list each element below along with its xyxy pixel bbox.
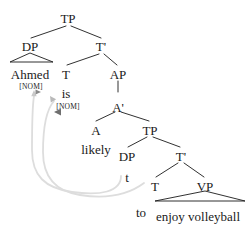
branch-abar-tp2 <box>121 112 149 121</box>
branch-tp2-tbar2 <box>153 137 180 147</box>
syntax-tree-figure: TP DP T' Ahmed [NOM] T is [NOM] AP A' A … <box>0 0 249 234</box>
branch-tbar2-t2 <box>156 163 178 177</box>
branch-tbar2-vp <box>184 163 204 177</box>
tree-lines-svg <box>0 0 249 234</box>
terminal-enjoy-volleyball: enjoy volleyball <box>156 210 240 223</box>
terminal-is: is <box>62 87 71 100</box>
node-a-head: A <box>91 124 100 137</box>
terminal-trace: t <box>125 171 129 184</box>
branch-tp1-tbar1 <box>71 26 101 38</box>
branch-tbar1-t1 <box>67 54 99 65</box>
node-dp-embedded: DP <box>119 150 136 163</box>
terminal-likely: likely <box>81 143 111 156</box>
node-dp-subject: DP <box>22 40 39 53</box>
branch-tbar1-ap <box>104 54 117 65</box>
feature-is-nom: [NOM] <box>56 103 80 111</box>
node-tbar-matrix: T' <box>96 40 106 53</box>
terminal-to: to <box>136 206 146 219</box>
node-ap: AP <box>110 68 127 81</box>
node-t-matrix: T <box>62 68 70 81</box>
triangle-dp-ahmed <box>10 53 53 62</box>
node-tbar-embedded: T' <box>176 150 186 163</box>
node-tp-embedded: TP <box>142 124 157 137</box>
branch-tp1-dp1 <box>31 26 66 38</box>
node-abar: A' <box>112 101 124 114</box>
node-tp-matrix: TP <box>60 12 75 25</box>
terminal-ahmed: Ahmed <box>11 68 49 81</box>
feature-ahmed-nom: [NOM] <box>19 83 43 91</box>
node-t-embedded: T <box>151 180 159 193</box>
branch-tp2-dp2 <box>128 137 147 147</box>
node-vp: VP <box>197 180 214 193</box>
